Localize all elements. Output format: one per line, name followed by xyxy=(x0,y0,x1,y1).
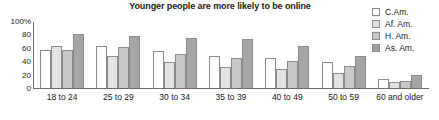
x-axis-tick-label: 40 to 49 xyxy=(259,92,315,102)
x-axis-tick-label: 35 to 39 xyxy=(203,92,259,102)
bar[interactable] xyxy=(96,46,107,88)
bar[interactable] xyxy=(40,50,51,88)
legend-item[interactable]: As. Am. xyxy=(372,43,414,53)
legend-item[interactable]: H. Am. xyxy=(372,31,414,41)
x-axis-tick-label: 50 to 59 xyxy=(315,92,371,102)
bar[interactable] xyxy=(73,34,84,88)
bar[interactable] xyxy=(276,69,287,88)
bar[interactable] xyxy=(298,46,309,88)
bar[interactable] xyxy=(209,56,220,88)
bar[interactable] xyxy=(220,67,231,88)
bar[interactable] xyxy=(153,51,164,88)
bar-group xyxy=(203,22,259,88)
bar[interactable] xyxy=(129,36,140,88)
bar[interactable] xyxy=(186,38,197,88)
bar[interactable] xyxy=(118,47,129,88)
legend-item[interactable]: C.Am. xyxy=(372,7,414,17)
bar-group xyxy=(90,22,146,88)
bar[interactable] xyxy=(389,82,400,88)
x-axis-tick-label: 60 and older xyxy=(372,92,428,102)
bar[interactable] xyxy=(400,81,411,88)
y-axis-tick-label: 20 xyxy=(22,72,31,80)
bar[interactable] xyxy=(355,56,366,88)
bar-group xyxy=(147,22,203,88)
x-axis-tick-label: 18 to 24 xyxy=(34,92,90,102)
bar[interactable] xyxy=(265,58,276,88)
bar-group xyxy=(34,22,90,88)
bar[interactable] xyxy=(242,39,253,89)
legend-label: C.Am. xyxy=(385,8,409,17)
legend-swatch-icon xyxy=(372,8,380,16)
y-axis-tick-label: 40 xyxy=(22,58,31,66)
x-axis-tick-label: 30 to 34 xyxy=(147,92,203,102)
chart-legend: C.Am.Af. Am.H. Am.As. Am. xyxy=(372,7,414,53)
chart-title: Younger people are more likely to be onl… xyxy=(90,1,350,11)
bar[interactable] xyxy=(51,46,62,88)
y-axis-tick-label: 60 xyxy=(22,45,31,53)
legend-swatch-icon xyxy=(372,20,380,28)
bar[interactable] xyxy=(175,54,186,88)
bar[interactable] xyxy=(378,79,389,88)
bar[interactable] xyxy=(107,56,118,88)
legend-label: Af. Am. xyxy=(385,20,412,29)
bar-group xyxy=(259,22,315,88)
bar[interactable] xyxy=(333,73,344,88)
y-axis-tick-labels: 020406080100% xyxy=(0,22,31,89)
bar[interactable] xyxy=(62,50,73,88)
bar-group xyxy=(315,22,371,88)
y-axis-tick-label: 100% xyxy=(11,18,31,26)
legend-swatch-icon xyxy=(372,32,380,40)
legend-label: H. Am. xyxy=(385,32,411,41)
legend-label: As. Am. xyxy=(385,44,414,53)
bar-chart: Younger people are more likely to be onl… xyxy=(0,0,439,120)
bar[interactable] xyxy=(344,66,355,88)
bar[interactable] xyxy=(231,58,242,88)
x-axis-line xyxy=(33,88,429,89)
legend-swatch-icon xyxy=(372,44,380,52)
bar[interactable] xyxy=(322,62,333,88)
bar[interactable] xyxy=(287,61,298,88)
y-axis-tick-label: 80 xyxy=(22,31,31,39)
legend-item[interactable]: Af. Am. xyxy=(372,19,414,29)
x-axis-tick-label: 25 to 29 xyxy=(90,92,146,102)
x-axis-tick-labels: 18 to 2425 to 2930 to 3435 to 3940 to 49… xyxy=(34,92,428,102)
bar[interactable] xyxy=(164,62,175,88)
y-axis-tick-label: 0 xyxy=(27,85,31,93)
bar[interactable] xyxy=(411,75,422,88)
bar-groups xyxy=(34,22,428,88)
